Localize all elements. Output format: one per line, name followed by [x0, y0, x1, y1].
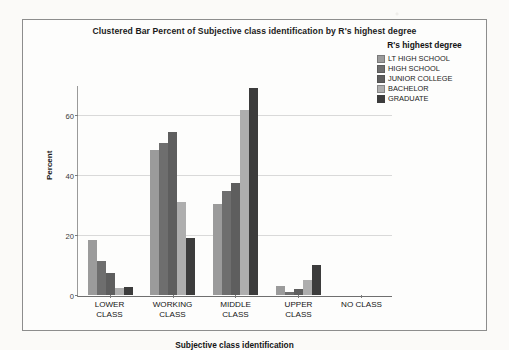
x-axis-label: WORKING CLASS [141, 300, 204, 319]
y-tick-label: 40 [66, 172, 74, 181]
bar[interactable] [303, 280, 312, 295]
legend-item-label: HIGH SCHOOL [388, 64, 440, 73]
legend-item-label: LT HIGH SCHOOL [388, 54, 450, 63]
bar[interactable] [124, 287, 133, 295]
chart-frame: Clustered Bar Percent of Subjective clas… [22, 19, 487, 331]
bar[interactable] [249, 88, 258, 296]
x-tick-mark [173, 295, 174, 298]
legend-title: R's highest degree [368, 40, 481, 51]
bar[interactable] [168, 132, 177, 295]
x-axis-title: Subjective class identification [77, 340, 392, 350]
bar[interactable] [159, 143, 168, 295]
x-tick-mark [361, 295, 362, 298]
x-axis-label: LOWER CLASS [78, 300, 141, 319]
bar[interactable] [97, 261, 106, 295]
bar[interactable] [177, 202, 186, 295]
bar-group [267, 86, 330, 295]
x-axis-tick-labels: LOWER CLASSWORKING CLASSMIDDLE CLASSUPPE… [78, 300, 393, 319]
y-tick-label: 20 [66, 232, 74, 241]
legend-item-label: JUNIOR COLLEGE [388, 74, 452, 83]
x-axis-label: UPPER CLASS [267, 300, 330, 319]
y-tick-label: 0 [70, 292, 74, 301]
y-tick-mark [75, 175, 78, 176]
legend-item[interactable]: HIGH SCHOOL [377, 64, 481, 74]
legend-item[interactable]: BACHELOR [377, 84, 481, 94]
bar[interactable] [231, 183, 240, 295]
bar[interactable] [213, 204, 222, 295]
legend-item[interactable]: GRADUATE [377, 94, 481, 104]
legend-color-swatch [377, 55, 385, 63]
chart-title: Clustered Bar Percent of Subjective clas… [23, 26, 486, 36]
bar[interactable] [115, 288, 124, 295]
legend-color-swatch [377, 65, 385, 73]
bar-groups [79, 86, 392, 295]
x-axis-label: NO CLASS [330, 300, 393, 319]
x-tick-mark [298, 295, 299, 298]
bar-group [204, 86, 267, 295]
plot-area: 0204060 [77, 86, 392, 297]
bar[interactable] [186, 238, 195, 295]
bar[interactable] [276, 286, 285, 295]
bar[interactable] [240, 110, 249, 295]
legend-item[interactable]: LT HIGH SCHOOL [377, 54, 481, 64]
bar[interactable] [222, 191, 231, 296]
y-tick-mark [75, 235, 78, 236]
x-tick-mark [110, 295, 111, 298]
y-axis-title: Percent [45, 151, 54, 180]
x-axis-label: MIDDLE CLASS [204, 300, 267, 319]
bar[interactable] [88, 240, 97, 295]
legend-item[interactable]: JUNIOR COLLEGE [377, 74, 481, 84]
legend-color-swatch [377, 75, 385, 83]
bar[interactable] [106, 273, 115, 295]
x-tick-mark [235, 295, 236, 298]
bar-group [142, 86, 205, 295]
bar[interactable] [312, 265, 321, 295]
y-tick-mark [75, 295, 78, 296]
y-tick-mark [75, 115, 78, 116]
bar-group [79, 86, 142, 295]
bar[interactable] [285, 292, 294, 295]
legend-item-label: GRADUATE [388, 94, 429, 103]
legend-item-label: BACHELOR [388, 84, 429, 93]
bar-group [329, 86, 392, 295]
y-tick-label: 60 [66, 112, 74, 121]
plot-inner: 0204060 [77, 86, 392, 297]
bar[interactable] [150, 150, 159, 295]
